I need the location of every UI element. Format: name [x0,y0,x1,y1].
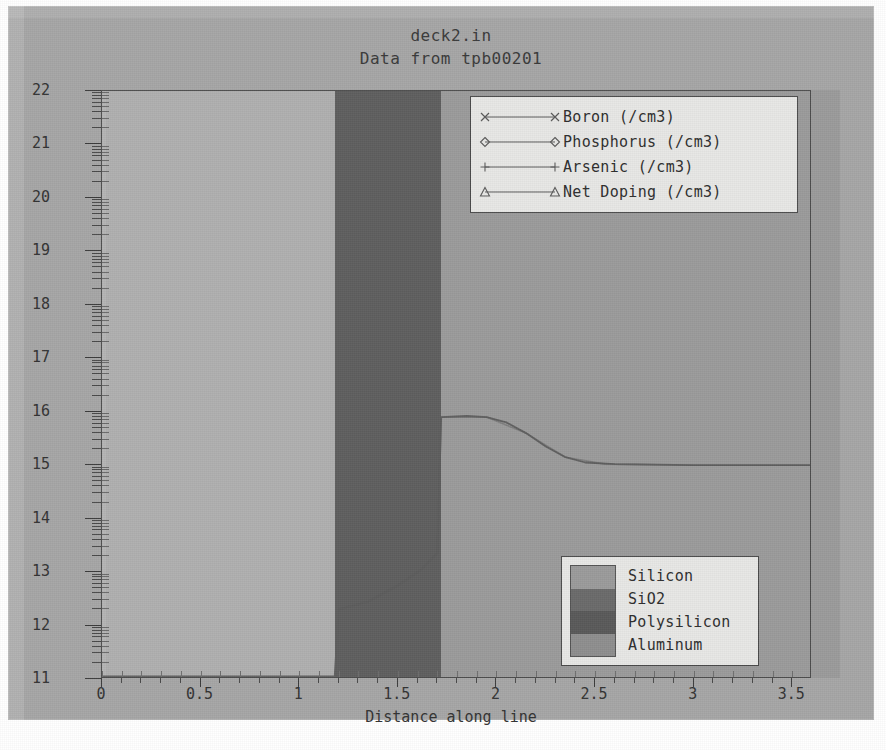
x-tick-inner [713,671,714,677]
y-tick-minor [92,539,101,540]
material-legend-label: Polysilicon [628,611,731,634]
y-tick-minor-inner [102,366,109,367]
x-tick-minor [732,678,733,683]
x-tick-minor [535,678,536,683]
x-tick-inner [220,671,221,677]
x-tick-major [397,678,398,687]
y-tick-major [85,304,101,305]
y-tick-minor [92,259,101,260]
y-tick-minor [92,118,101,119]
silicon-overflow-band [811,90,840,678]
material-legend-label: Aluminum [628,634,731,657]
y-tick-minor-inner [102,546,109,547]
y-tick-label: 20 [0,188,50,206]
y-tick-minor-inner [102,160,109,161]
y-tick-minor-inner [102,373,109,374]
y-tick-major [85,518,101,519]
y-tick-minor [92,419,101,420]
material-legend-label: Silicon [628,565,731,588]
x-tick-label: 0 [71,685,131,703]
y-tick-label: 11 [0,669,50,687]
y-tick-minor-inner [102,419,109,420]
x-tick-inner [378,671,379,677]
y-tick-minor [92,379,101,380]
y-tick-minor [92,209,101,210]
y-tick-minor [92,218,101,219]
y-tick-minor-inner [102,325,109,326]
x-tick-inner [437,671,438,677]
x-tick-major [298,678,299,687]
y-tick-minor-inner [102,213,109,214]
y-tick-minor-inner [102,579,109,580]
x-tick-inner [733,671,734,677]
material-swatch-polysilicon [571,611,615,634]
x-tick-inner [753,671,754,677]
y-tick-minor [92,439,101,440]
y-tick-minor [92,106,101,107]
x-tick-inner [773,671,774,677]
x-tick-minor [417,678,418,683]
y-tick-minor-inner [102,608,109,609]
x-tick-inner [496,671,497,677]
y-tick-minor-inner [102,492,109,493]
x-tick-major [693,678,694,687]
y-tick-minor-inner [102,439,109,440]
y-tick-minor [92,102,101,103]
y-tick-minor-inner [102,152,109,153]
y-tick-minor-inner [102,416,109,417]
y-tick-minor [92,529,101,530]
y-tick-minor [92,278,101,279]
y-tick-minor [92,312,101,313]
y-tick-minor [92,152,101,153]
y-tick-minor-inner [102,630,109,631]
y-tick-minor-inner [102,316,109,317]
y-tick-label: 15 [0,455,50,473]
y-tick-minor [92,213,101,214]
x-tick-minor [259,678,260,683]
y-tick-minor-inner [102,385,109,386]
y-tick-minor [92,492,101,493]
y-tick-minor [92,633,101,634]
x-tick-minor [239,678,240,683]
x-tick-inner [319,671,320,677]
x-tick-minor [318,678,319,683]
x-tick-inner [339,671,340,677]
x-tick-major [200,678,201,687]
y-tick-major [85,250,101,251]
x-tick-minor [712,678,713,683]
x-tick-minor [279,678,280,683]
y-tick-minor-inner [102,106,109,107]
y-tick-minor [92,385,101,386]
y-tick-minor-inner [102,662,109,663]
y-tick-minor-inner [102,636,109,637]
y-tick-label: 14 [0,509,50,527]
y-tick-minor [92,546,101,547]
y-tick-minor-inner [102,181,109,182]
y-tick-minor-inner [102,427,109,428]
y-tick-minor [92,608,101,609]
y-tick-minor-inner [102,309,109,310]
y-tick-minor-inner [102,520,109,521]
y-tick-minor [92,641,101,642]
x-tick-label: 3 [663,685,723,703]
x-tick-minor [515,678,516,683]
legend-marker-diamond-icon [477,131,563,153]
y-tick-label: 17 [0,348,50,366]
legend-marker-triangle-icon [477,181,563,203]
y-tick-minor-inner [102,92,109,93]
x-tick-inner [280,671,281,677]
x-tick-major [791,678,792,687]
y-tick-minor [92,253,101,254]
y-tick-minor [92,469,101,470]
y-tick-minor [92,325,101,326]
y-tick-minor [92,526,101,527]
x-tick-inner [299,671,300,677]
x-tick-inner [141,671,142,677]
y-tick-minor [92,467,101,468]
x-tick-minor [140,678,141,683]
y-tick-minor-inner [102,627,109,628]
y-tick-minor [92,520,101,521]
y-tick-minor-inner [102,234,109,235]
y-tick-minor-inner [102,127,109,128]
y-tick-minor-inner [102,199,109,200]
